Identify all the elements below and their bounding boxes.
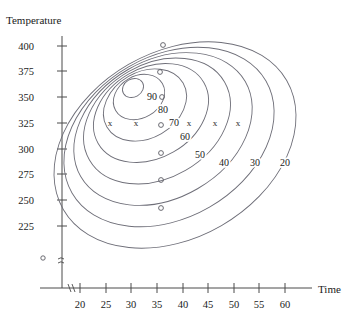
data-point-1 [161, 43, 166, 48]
x-marker-5: x [236, 118, 241, 128]
y-tick-label-375: 375 [18, 66, 34, 77]
contour-label-40: 40 [219, 157, 229, 168]
data-point-7 [159, 206, 164, 211]
contour-chart-figure: Temperature Time 400 375 350 325 [0, 0, 352, 317]
x-tick-label-55: 55 [254, 299, 265, 310]
x-tick-label-45: 45 [203, 299, 214, 310]
x-tick-label-60: 60 [280, 299, 291, 310]
data-point-2 [158, 70, 163, 75]
contour-level-50 [61, 33, 253, 210]
x-marker-3: x [187, 118, 192, 128]
origin-data-point [41, 256, 45, 260]
y-tick-label-325: 325 [18, 118, 34, 129]
x-tick-label-25: 25 [101, 299, 112, 310]
contour-label-80: 80 [158, 104, 168, 115]
y-axis-title: Temperature [6, 14, 62, 26]
x-axis-title: Time [318, 283, 341, 295]
y-tick-label-400: 400 [18, 41, 34, 52]
contour-level-30 [32, 11, 307, 263]
contour-level-20 [17, 0, 333, 290]
contour-label-30: 30 [250, 157, 260, 168]
x-marker-2: x [134, 118, 139, 128]
contour-level-60 [76, 44, 227, 183]
contour-label-50: 50 [195, 149, 205, 160]
y-tick-label-275: 275 [18, 169, 34, 180]
x-tick-label-20: 20 [75, 299, 86, 310]
contour-level-80 [105, 65, 173, 128]
contour-label-70: 70 [169, 117, 179, 128]
contour-label-20: 20 [280, 157, 290, 168]
contour-lines-group [17, 0, 333, 290]
y-tick-label-300: 300 [18, 144, 34, 155]
y-tick-label-250: 250 [18, 195, 34, 206]
x-tick-label-40: 40 [178, 299, 189, 310]
y-axis-break-icon [58, 258, 64, 263]
contour-label-90: 90 [147, 91, 157, 102]
x-tick-label-50: 50 [229, 299, 240, 310]
x-tick-label-30: 30 [126, 299, 137, 310]
x-tick-label-35: 35 [152, 299, 163, 310]
contour-level-90 [119, 75, 147, 102]
contour-level-40 [46, 22, 280, 237]
data-points-group [158, 43, 166, 211]
y-tick-label-225: 225 [18, 221, 34, 232]
contour-label-60: 60 [180, 131, 190, 142]
x-marker-1: x [108, 118, 113, 128]
plot-canvas: Temperature Time 400 375 350 325 [0, 0, 352, 317]
data-point-5 [159, 151, 164, 156]
x-marker-4: x [213, 118, 218, 128]
data-point-4 [159, 123, 164, 128]
y-tick-label-350: 350 [18, 92, 34, 103]
